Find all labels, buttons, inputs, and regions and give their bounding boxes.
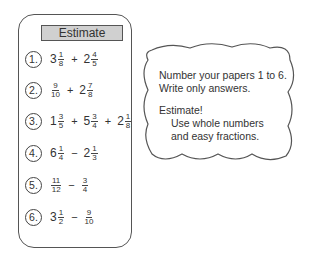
fraction: 45 (91, 51, 97, 68)
whole-number: 2 (84, 52, 91, 66)
expression: 318+245 (50, 51, 99, 68)
instruction-line: Use whole numbers (159, 117, 287, 130)
instruction-line: Write only answers. (159, 82, 287, 95)
whole-number: 2 (84, 146, 91, 160)
problem-number: 6. (25, 209, 42, 226)
operator: + (67, 84, 73, 96)
whole-number: 2 (79, 83, 86, 97)
instruction-line: Estimate! (159, 104, 287, 117)
expression: 312−910 (50, 209, 94, 226)
fraction: 12 (58, 209, 64, 226)
problem-number: 4. (25, 145, 42, 162)
problem-number: 3. (25, 113, 42, 130)
whole-number: 6 (50, 146, 57, 160)
fraction: 14 (58, 145, 64, 162)
expression: 1112−34 (50, 177, 89, 194)
fraction: 1112 (51, 177, 61, 194)
operator: + (71, 53, 77, 65)
expression: 135+534+218 (50, 113, 132, 130)
operator: + (105, 115, 111, 127)
fraction: 78 (87, 82, 93, 99)
instruction-line: Number your papers 1 to 6. (159, 69, 287, 82)
fraction: 18 (58, 51, 64, 68)
fraction: 910 (51, 82, 60, 99)
panel-title: Estimate (41, 25, 123, 41)
problem-item: 6.312−910 (25, 205, 94, 229)
instruction-line: and easy fractions. (159, 130, 287, 143)
problem-item: 1.318+245 (25, 47, 99, 71)
problem-number: 5. (25, 177, 42, 194)
instructions-text: Number your papers 1 to 6. Write only an… (159, 69, 287, 143)
problem-item: 2.910+278 (25, 78, 94, 102)
whole-number: 1 (50, 114, 57, 128)
problem-item: 3.135+534+218 (25, 109, 132, 133)
operator: − (71, 211, 77, 223)
operator: + (71, 115, 77, 127)
fraction: 35 (58, 113, 64, 130)
whole-number: 3 (50, 210, 57, 224)
expression: 910+278 (50, 82, 94, 99)
whole-number: 5 (84, 114, 91, 128)
fraction: 34 (82, 177, 88, 194)
whole-number: 3 (50, 52, 57, 66)
estimate-panel: Estimate 1.318+2452.910+2783.135+534+218… (18, 14, 132, 248)
fraction: 910 (85, 209, 94, 226)
operator: − (68, 179, 74, 191)
problem-item: 5.1112−34 (25, 173, 89, 197)
fraction: 13 (91, 145, 97, 162)
fraction: 18 (125, 113, 131, 130)
whole-number: 2 (117, 114, 124, 128)
problem-number: 1. (25, 51, 42, 68)
problem-item: 4.614−213 (25, 141, 99, 165)
operator: − (71, 147, 77, 159)
expression: 614−213 (50, 145, 99, 162)
fraction: 34 (91, 113, 97, 130)
problem-number: 2. (25, 82, 42, 99)
